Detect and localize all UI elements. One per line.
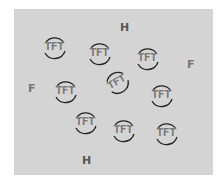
molecule-label: TFT	[51, 85, 79, 96]
fluorine-atom-label: F	[187, 59, 195, 70]
hydrogen-atom-label: H	[120, 22, 129, 33]
molecule-label: TFT	[133, 52, 161, 63]
molecule-label: TFT	[152, 127, 180, 138]
tft-molecule: TFT	[71, 109, 99, 137]
molecule-label: TFT	[85, 47, 113, 58]
tft-molecule: TFT	[147, 82, 175, 110]
molecule-label: TFT	[71, 116, 99, 127]
hydrogen-atom-label: H	[82, 155, 91, 166]
molecule-label: TFT	[40, 41, 68, 52]
molecule-label: TFT	[147, 89, 175, 100]
tft-molecule: TFT	[133, 45, 161, 73]
tft-molecule: TFT	[109, 117, 137, 145]
fluorine-atom-label: F	[28, 83, 36, 94]
tft-molecule: TFT	[51, 78, 79, 106]
tft-molecule: TFT	[152, 120, 180, 148]
tft-molecule: TFT	[85, 40, 113, 68]
tft-molecule: TFT	[40, 34, 68, 62]
molecule-label: TFT	[109, 124, 137, 135]
